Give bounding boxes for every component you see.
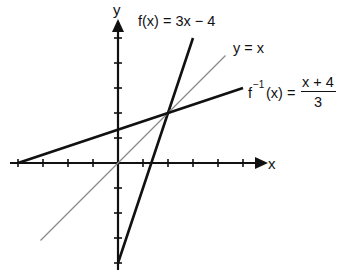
inverse-label-numerator: x + 4 bbox=[302, 74, 334, 90]
y-axis bbox=[112, 19, 124, 270]
inverse-label-denominator: 3 bbox=[314, 94, 322, 110]
x-axis-arrow-icon bbox=[255, 157, 268, 169]
x-axis bbox=[10, 157, 268, 169]
inverse-label-superscript: −1 bbox=[253, 79, 265, 90]
x-axis-label: x bbox=[268, 155, 276, 172]
inverse-label-rest: (x) = bbox=[266, 85, 295, 101]
y-axis-label: y bbox=[113, 1, 121, 18]
identity-label: y = x bbox=[233, 40, 265, 56]
f-label: f(x) = 3x − 4 bbox=[138, 13, 215, 29]
function-inverse-graph: y x f(x) = 3x − 4 y = x f −1 (x) = x + 4… bbox=[0, 0, 338, 276]
identity-line bbox=[41, 56, 226, 241]
inverse-label: f −1 (x) = x + 4 3 bbox=[248, 74, 336, 110]
series-lines bbox=[18, 38, 243, 263]
f-line bbox=[118, 38, 193, 263]
y-axis-arrow-icon bbox=[112, 19, 124, 32]
inverse-line bbox=[18, 88, 243, 163]
